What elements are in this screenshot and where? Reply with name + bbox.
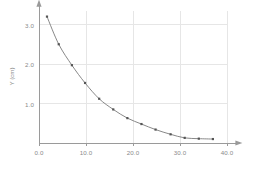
- data-point-marker: [71, 64, 73, 66]
- y-tick-label: 1.0: [0, 100, 34, 107]
- data-series: [46, 16, 214, 141]
- data-point-marker: [140, 123, 142, 125]
- chart-container: 0.010.020.030.040.0 1.02.03.0 Y (cm): [0, 0, 260, 177]
- data-point-marker: [212, 138, 214, 140]
- gridlines: [39, 11, 228, 143]
- x-tick-label: 0.0: [35, 149, 44, 156]
- data-point-marker: [198, 138, 200, 140]
- y-axis-arrow: [36, 0, 41, 7]
- x-tick-label: 40.0: [221, 149, 233, 156]
- y-tick-label: 3.0: [0, 21, 34, 28]
- data-point-marker: [98, 98, 100, 100]
- y-axis-title: Y (cm): [8, 61, 15, 91]
- x-tick-label: 20.0: [127, 149, 139, 156]
- data-point-marker: [170, 133, 172, 135]
- x-tick-label: 10.0: [80, 149, 92, 156]
- series-line: [47, 17, 213, 139]
- data-point-marker: [58, 43, 60, 45]
- data-point-marker: [46, 16, 48, 18]
- x-axis-arrow: [235, 140, 242, 145]
- axes: [36, 0, 242, 146]
- x-tick-label: 30.0: [174, 149, 186, 156]
- data-point-marker: [184, 137, 186, 139]
- data-point-marker: [112, 108, 114, 110]
- data-point-marker: [154, 128, 156, 130]
- data-point-marker: [84, 82, 86, 84]
- y-tick-label: 2.0: [0, 61, 34, 68]
- data-point-marker: [126, 117, 128, 119]
